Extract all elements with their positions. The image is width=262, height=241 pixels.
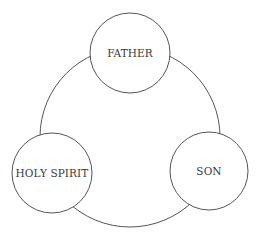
node-son-label: SON [196,165,221,177]
node-father-label: FATHER [107,47,154,59]
node-holy-spirit-label: HOLY SPIRIT [16,167,89,179]
node-holy-spirit: HOLY SPIRIT [12,133,92,213]
node-father: FATHER [90,13,170,93]
node-son: SON [170,132,248,210]
trinity-cycle-diagram: FATHER SON HOLY SPIRIT [0,0,262,241]
